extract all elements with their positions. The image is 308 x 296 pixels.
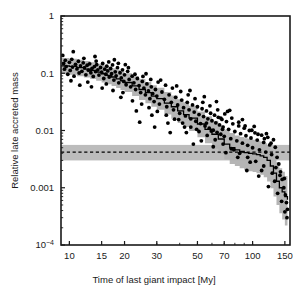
x-tick-label: 10 [64, 250, 75, 261]
y-axis-ticks: 10.10.010.00110−4 [30, 10, 65, 250]
x-tick-label: 100 [245, 250, 261, 261]
y-tick-label: 0.001 [30, 182, 54, 193]
plot-background [61, 16, 290, 245]
x-tick-label: 70 [219, 250, 230, 261]
x-tick-label: 30 [152, 250, 163, 261]
x-axis-title: Time of last giant impact [My] [0, 274, 308, 285]
x-tick-label: 50 [192, 250, 203, 261]
chart-figure: 101520305070100150 10.10.010.00110−4 Tim… [0, 0, 308, 296]
x-tick-label: 15 [96, 250, 107, 261]
y-tick-label: 1 [49, 10, 54, 21]
y-tick-label: 10−4 [35, 239, 54, 251]
scatter-plot-svg: 101520305070100150 10.10.010.00110−4 [0, 0, 308, 296]
y-tick-label: 0.01 [36, 125, 55, 136]
x-tick-label: 20 [119, 250, 130, 261]
x-tick-label: 150 [277, 250, 293, 261]
y-tick-label: 0.1 [41, 68, 54, 79]
y-axis-title: Relative late accreted mass [9, 31, 20, 231]
constraint-band [61, 145, 290, 161]
